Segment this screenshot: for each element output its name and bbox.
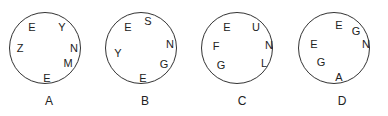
circle-letter: E <box>335 20 342 31</box>
circle-letter: N <box>70 43 78 54</box>
circle-letter: A <box>335 72 342 83</box>
circle-letter: Y <box>114 48 121 59</box>
circle-letter: E <box>223 22 230 33</box>
circle-letter: G <box>217 60 226 71</box>
circle-letter: U <box>252 22 260 33</box>
circle-letter: M <box>63 58 72 69</box>
circle-letter: E <box>310 39 317 50</box>
circle-letter: N <box>166 39 174 50</box>
circle-letter: Z <box>17 43 24 54</box>
option-label: C <box>238 95 247 107</box>
circle-letter: L <box>261 58 267 69</box>
option-label: D <box>338 95 347 107</box>
circle-letter: E <box>124 22 131 33</box>
circle-letter: Y <box>58 22 65 33</box>
circle-letter: G <box>317 57 326 68</box>
circle-letter: E <box>43 73 50 84</box>
circle-letter: F <box>213 41 220 52</box>
circle-letter: N <box>362 39 370 50</box>
option-label: B <box>141 95 149 107</box>
circle-letter: E <box>28 22 35 33</box>
circle-letter: G <box>352 26 361 37</box>
circle-d <box>298 12 370 84</box>
circle-letter: S <box>144 16 151 27</box>
option-label: A <box>45 95 53 107</box>
letter-circle-puzzle: EYZNMEAESNYGEBEUFNGLCEGNEGAD <box>0 0 388 116</box>
circle-letter: N <box>265 40 273 51</box>
circle-letter: G <box>160 59 169 70</box>
circle-letter: E <box>139 73 146 84</box>
